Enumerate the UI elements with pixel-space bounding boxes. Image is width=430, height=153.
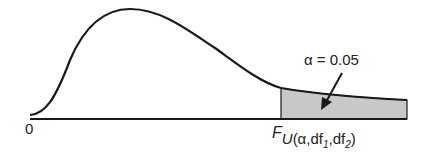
crit-args-open: (α,df bbox=[293, 130, 323, 147]
crit-F: F bbox=[272, 124, 282, 141]
alpha-annotation: α = 0.05 bbox=[304, 51, 359, 68]
crit-U: U bbox=[282, 130, 293, 147]
upper-tail-shaded-region bbox=[281, 88, 407, 119]
crit-close: ) bbox=[351, 130, 356, 147]
crit-mid: ,df bbox=[329, 130, 346, 147]
crit-U-group: U(α,df1,df2) bbox=[282, 130, 356, 147]
x-origin-label: 0 bbox=[25, 120, 33, 137]
critical-value-label: FU(α,df1,df2) bbox=[272, 124, 356, 144]
f-distribution-chart bbox=[0, 0, 430, 153]
